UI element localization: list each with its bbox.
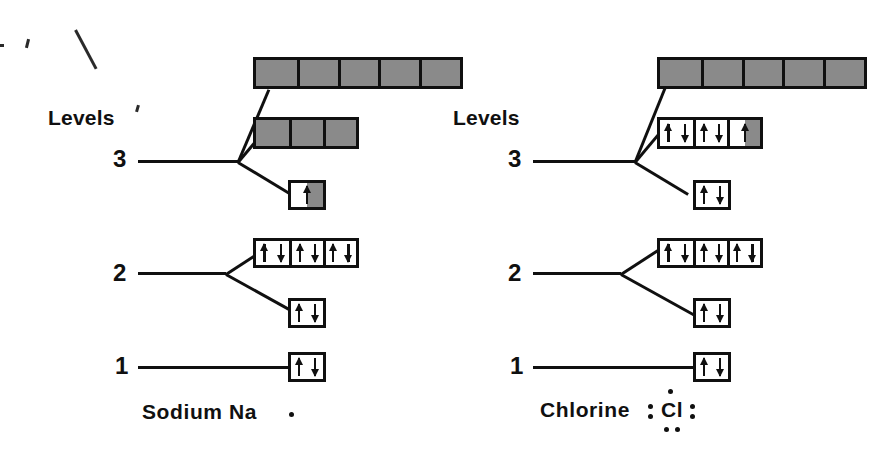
orbital-box bbox=[660, 60, 701, 86]
electron-arrow-pair bbox=[291, 301, 323, 325]
orbital-box bbox=[289, 241, 322, 265]
scan-artifact-diagonal-line bbox=[74, 29, 97, 69]
orbital-box bbox=[289, 120, 322, 146]
electron-arrow-up bbox=[299, 183, 315, 207]
electron-arrow-up bbox=[292, 241, 307, 265]
orbital-box bbox=[727, 241, 760, 265]
orbital-box bbox=[696, 301, 728, 325]
scan-artifact-speck-levels bbox=[135, 105, 140, 113]
orbital-box bbox=[742, 60, 783, 86]
electron-arrow-up bbox=[696, 120, 711, 146]
orbital-row-3p-chlorine bbox=[657, 117, 763, 149]
orbital-box bbox=[323, 241, 356, 265]
electron-arrow-pair bbox=[660, 120, 693, 146]
electron-arrow-down bbox=[677, 120, 694, 146]
electron-arrow-pair bbox=[660, 241, 693, 265]
level-number-3-sodium: 3 bbox=[113, 145, 127, 173]
levels-axis-label-chlorine: Levels bbox=[453, 106, 520, 130]
orbital-box bbox=[701, 60, 742, 86]
orbital-row-2p-sodium bbox=[253, 238, 359, 268]
orbital-box bbox=[256, 60, 297, 86]
electron-arrow-pair bbox=[696, 183, 728, 207]
level-2-branch-2s-sodium bbox=[225, 273, 291, 311]
electron-arrow-up bbox=[696, 355, 712, 379]
orbital-row-2s-sodium bbox=[288, 298, 326, 328]
energy-level-diagram-figure: Levels 3 2 1 bbox=[0, 0, 882, 452]
orbital-row-2p-chlorine bbox=[657, 238, 763, 268]
level-1-stem-chlorine bbox=[533, 366, 695, 369]
electron-arrow-down bbox=[307, 301, 323, 325]
scan-artifact-speck-left bbox=[0, 44, 4, 47]
electron-arrow-pair bbox=[299, 183, 315, 207]
electron-arrow-pair bbox=[291, 355, 323, 379]
electron-arrow-down bbox=[712, 183, 728, 207]
electron-arrow-up bbox=[256, 241, 273, 265]
scan-artifact-tick bbox=[25, 39, 30, 48]
lewis-dot-sodium-right bbox=[289, 412, 294, 417]
level-number-2-sodium: 2 bbox=[113, 259, 127, 287]
electron-arrow-down bbox=[711, 120, 726, 146]
level-number-3-chlorine: 3 bbox=[508, 145, 522, 173]
electron-arrow-pair bbox=[730, 241, 760, 265]
orbital-box bbox=[291, 301, 323, 325]
electron-arrow-down bbox=[341, 241, 356, 265]
element-symbol-chlorine: Cl bbox=[661, 398, 683, 422]
level-3-stem-sodium bbox=[138, 160, 238, 163]
electron-arrow-down bbox=[711, 241, 726, 265]
orbital-box bbox=[823, 60, 864, 86]
orbital-row-1s-sodium bbox=[288, 352, 326, 382]
electron-arrow-up bbox=[696, 301, 712, 325]
electron-arrow-up bbox=[326, 241, 341, 265]
electron-arrow-down bbox=[677, 241, 694, 265]
orbital-row-3s-sodium bbox=[288, 180, 326, 210]
level-number-2-chlorine: 2 bbox=[508, 259, 522, 287]
lewis-dot-cl-left-upper bbox=[648, 404, 653, 409]
electron-arrow-down bbox=[273, 241, 290, 265]
lewis-dot-cl-top bbox=[668, 389, 673, 394]
lewis-dot-cl-bottom-left bbox=[664, 427, 669, 432]
orbital-row-1s-chlorine bbox=[693, 352, 731, 382]
orbital-box bbox=[660, 241, 693, 265]
orbital-row-2s-chlorine bbox=[693, 298, 731, 328]
orbital-box bbox=[727, 120, 760, 146]
level-number-1-sodium: 1 bbox=[115, 352, 129, 380]
lewis-dot-cl-bottom-right bbox=[675, 427, 680, 432]
electron-arrow-down bbox=[307, 241, 322, 265]
orbital-box bbox=[693, 241, 726, 265]
orbital-box bbox=[256, 241, 289, 265]
orbital-box bbox=[323, 120, 356, 146]
orbital-box bbox=[291, 183, 323, 207]
level-3-branch-3s-chlorine bbox=[634, 161, 689, 196]
electron-arrow-up bbox=[730, 241, 745, 265]
electron-arrow-up bbox=[696, 241, 711, 265]
level-2-branch-2s-chlorine bbox=[620, 273, 695, 316]
levels-axis-label-sodium: Levels bbox=[48, 106, 115, 130]
electron-arrow-pair bbox=[696, 120, 726, 146]
element-caption-chlorine: Chlorine bbox=[540, 398, 630, 422]
orbital-box bbox=[338, 60, 379, 86]
level-2-stem-sodium bbox=[138, 272, 226, 275]
electron-arrow-up bbox=[660, 241, 677, 265]
electron-arrow-up bbox=[696, 183, 712, 207]
level-2-branch-2p-chlorine bbox=[620, 249, 659, 276]
electron-arrow-down bbox=[307, 355, 323, 379]
level-1-stem-sodium bbox=[138, 366, 290, 369]
lewis-dot-cl-right-upper bbox=[690, 404, 695, 409]
electron-arrow-up bbox=[291, 301, 307, 325]
electron-arrow-pair bbox=[737, 120, 752, 146]
electron-arrow-up bbox=[660, 120, 677, 146]
orbital-box bbox=[696, 183, 728, 207]
orbital-box bbox=[419, 60, 460, 86]
orbital-row-3d-sodium bbox=[253, 57, 463, 89]
orbital-box bbox=[693, 120, 726, 146]
electron-arrow-down bbox=[745, 241, 760, 265]
electron-arrow-up bbox=[291, 355, 307, 379]
orbital-box bbox=[782, 60, 823, 86]
lewis-dot-cl-right-lower bbox=[690, 414, 695, 419]
electron-arrow-up bbox=[737, 120, 752, 146]
level-3-branch-3s-sodium bbox=[237, 161, 291, 195]
element-caption-sodium: Sodium Na bbox=[142, 400, 257, 424]
electron-arrow-down bbox=[712, 301, 728, 325]
lewis-dot-cl-left-lower bbox=[648, 414, 653, 419]
electron-arrow-pair bbox=[326, 241, 356, 265]
